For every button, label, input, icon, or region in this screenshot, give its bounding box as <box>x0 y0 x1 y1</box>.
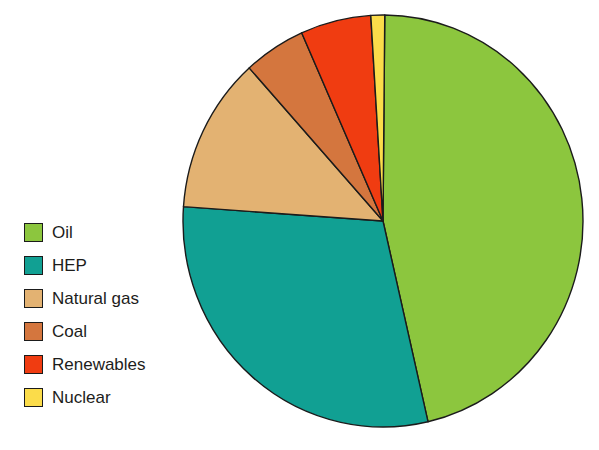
pie-chart-figure: Oil HEP Natural gas Coal Renewables Nucl… <box>0 0 599 450</box>
legend-label-oil: Oil <box>52 224 73 241</box>
legend-label-natural-gas: Natural gas <box>52 290 139 307</box>
legend-item-renewables[interactable]: Renewables <box>24 348 184 381</box>
legend-swatch-coal <box>24 322 43 341</box>
legend-item-natural-gas[interactable]: Natural gas <box>24 282 184 315</box>
legend-item-coal[interactable]: Coal <box>24 315 184 348</box>
legend-item-oil[interactable]: Oil <box>24 216 184 249</box>
pie-chart-graphic <box>180 10 590 435</box>
legend-swatch-oil <box>24 223 43 242</box>
legend-label-nuclear: Nuclear <box>52 389 111 406</box>
legend-label-coal: Coal <box>52 323 87 340</box>
pie-svg <box>180 10 590 435</box>
pie-slice-group <box>183 15 583 427</box>
legend-swatch-nuclear <box>24 388 43 407</box>
legend-swatch-hep <box>24 256 43 275</box>
legend-swatch-natural-gas <box>24 289 43 308</box>
legend-swatch-renewables <box>24 355 43 374</box>
legend-item-hep[interactable]: HEP <box>24 249 184 282</box>
legend-label-renewables: Renewables <box>52 356 146 373</box>
legend-item-nuclear[interactable]: Nuclear <box>24 381 184 414</box>
chart-legend: Oil HEP Natural gas Coal Renewables Nucl… <box>24 216 184 414</box>
legend-label-hep: HEP <box>52 257 87 274</box>
